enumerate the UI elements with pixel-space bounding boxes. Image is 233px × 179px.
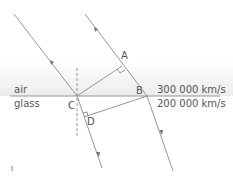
arrow-icon — [50, 60, 54, 65]
wavefront-DB — [84, 96, 147, 117]
label-glass: glass — [14, 99, 40, 109]
refracted-ray-left — [77, 96, 102, 168]
wavefront-CA — [77, 66, 122, 96]
right-angle-A-icon — [117, 69, 125, 73]
speed-air: 300 000 km/s — [157, 85, 226, 95]
point-D: D — [87, 117, 95, 127]
speed-glass: 200 000 km/s — [157, 99, 226, 109]
point-A: A — [121, 51, 128, 61]
label-air: air — [14, 85, 27, 95]
incident-ray-right — [85, 14, 147, 96]
arrow-icon — [94, 27, 98, 32]
point-C: C — [68, 101, 75, 111]
point-B: B — [136, 86, 143, 96]
footnote-mark: I — [11, 166, 13, 173]
